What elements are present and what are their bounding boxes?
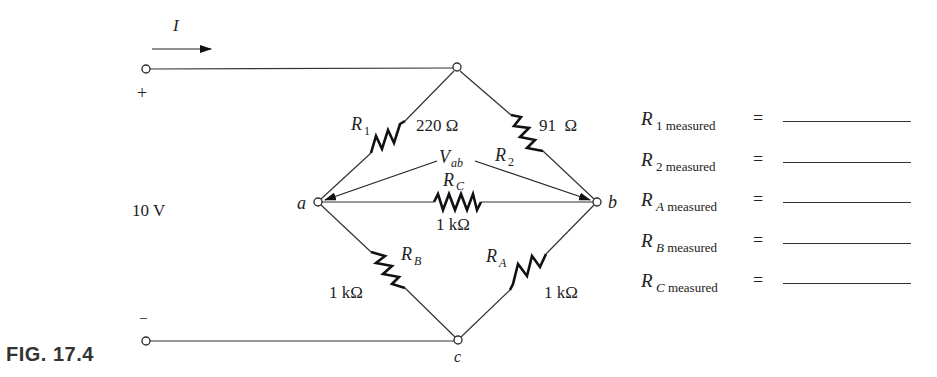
svg-text:R: R bbox=[400, 244, 412, 264]
svg-text:1: 1 bbox=[364, 124, 370, 138]
resistor-r1 bbox=[371, 121, 405, 153]
r2-label: R 2 91 Ω bbox=[494, 116, 577, 169]
r1-label: R 1 220 Ω bbox=[350, 114, 458, 138]
resistor-rb bbox=[371, 252, 405, 288]
svg-text:ab: ab bbox=[451, 156, 463, 170]
svg-text:2: 2 bbox=[508, 155, 514, 169]
node-a bbox=[314, 198, 322, 206]
resistor-rc bbox=[434, 194, 481, 210]
node-a-label: a bbox=[297, 193, 306, 213]
current-arrow: I bbox=[152, 16, 211, 49]
rb-value: 1 kΩ bbox=[329, 283, 363, 302]
r1-value: 220 Ω bbox=[416, 116, 458, 135]
r2-value: 91 Ω bbox=[539, 116, 577, 135]
r1-measured-blank[interactable] bbox=[783, 121, 911, 122]
plus-sign: + bbox=[137, 83, 147, 103]
svg-text:C: C bbox=[456, 179, 465, 193]
node-c bbox=[454, 336, 462, 344]
node-top bbox=[453, 63, 461, 71]
figure-label: FIG. 17.4 bbox=[6, 343, 94, 366]
rb-measured-blank[interactable] bbox=[783, 243, 911, 244]
ra-measured-blank[interactable] bbox=[783, 202, 911, 203]
source-voltage-label: 10 V bbox=[132, 201, 166, 220]
node-b-label: b bbox=[608, 192, 617, 212]
ra-value: 1 kΩ bbox=[544, 283, 578, 302]
svg-text:R: R bbox=[494, 145, 506, 165]
r2-measured-blank[interactable] bbox=[783, 162, 911, 163]
positive-terminal bbox=[142, 65, 150, 73]
svg-text:B: B bbox=[414, 254, 422, 268]
bridge-circuit-diagram: I + – 10 V bbox=[0, 0, 937, 377]
current-label: I bbox=[172, 16, 180, 35]
node-b bbox=[593, 198, 601, 206]
minus-sign: – bbox=[139, 310, 148, 325]
svg-text:R: R bbox=[442, 170, 454, 190]
svg-text:R: R bbox=[350, 114, 362, 134]
vab-label: V ab bbox=[439, 147, 463, 170]
svg-text:A: A bbox=[498, 256, 507, 270]
node-c-label: c bbox=[454, 348, 461, 365]
rc-value: 1 kΩ bbox=[436, 215, 470, 234]
rc-measured-blank[interactable] bbox=[783, 283, 911, 284]
svg-text:R: R bbox=[485, 246, 497, 266]
resistor-ra bbox=[510, 254, 546, 290]
negative-terminal bbox=[142, 337, 150, 345]
